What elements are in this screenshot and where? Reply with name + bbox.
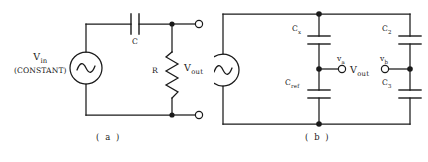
junction-dot-bottom <box>169 112 174 117</box>
caption-a: ( a ) <box>96 133 121 141</box>
resistor-r-zigzag <box>166 52 178 98</box>
junction-dot-top <box>169 21 174 26</box>
capacitor-cx-label: Cx <box>292 25 301 35</box>
output-label-vout-b: Vout <box>350 65 369 78</box>
terminal-va <box>338 65 345 72</box>
node-va-label: va <box>337 55 345 65</box>
capacitor-cref-label: Cref <box>285 79 300 89</box>
circuit-figure: Vin (CONSTANT) C R Vout ( a ) <box>0 0 428 162</box>
ac-source-sine-a <box>77 64 95 73</box>
vout-subscript-b: out <box>357 70 369 78</box>
capacitor-c2-label: C2 <box>382 25 392 35</box>
vout-subscript-a: out <box>191 68 203 76</box>
va-subscript: a <box>342 59 345 65</box>
vin-note: (CONSTANT) <box>14 67 67 75</box>
ac-source-circle-b <box>214 54 239 86</box>
cref-subscript: ref <box>291 83 299 89</box>
capacitor-c3-label: C3 <box>382 79 392 89</box>
resistor-r-label: R <box>152 67 158 75</box>
terminal-output-positive <box>195 20 202 27</box>
vb-subscript: b <box>385 59 389 65</box>
terminal-vb <box>381 65 388 72</box>
c3-subscript: 3 <box>388 83 392 89</box>
node-vb-label: vb <box>380 55 388 65</box>
junction-dot-vb <box>407 66 413 72</box>
junction-dot-b-top <box>316 11 322 17</box>
circuit-panel-a: Vin (CONSTANT) C R Vout ( a ) <box>0 0 214 162</box>
vin-subscript: in <box>40 57 47 65</box>
circuit-panel-b: Cx Cref C2 C3 va vb Vout ( b ) <box>214 0 428 162</box>
junction-dot-va <box>316 66 322 72</box>
junction-dot-b-bottom <box>316 121 322 127</box>
source-label-vin: Vin (CONSTANT) <box>14 52 67 74</box>
c2-subscript: 2 <box>388 29 392 35</box>
caption-b: ( b ) <box>305 133 330 141</box>
capacitor-c-label: C <box>132 38 138 46</box>
output-label-vout-a: Vout <box>184 63 203 76</box>
cx-subscript: x <box>298 29 301 35</box>
ac-source-sine-b <box>214 66 232 75</box>
terminal-output-negative <box>195 111 202 118</box>
